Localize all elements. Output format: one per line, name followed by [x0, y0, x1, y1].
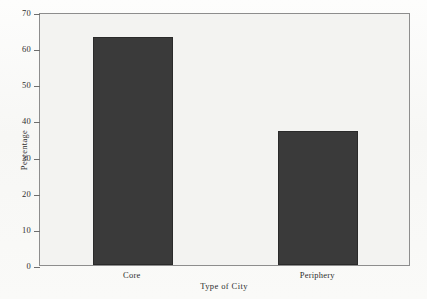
bar	[278, 131, 358, 265]
y-axis-tick-label: 40	[22, 116, 31, 126]
x-axis-title: Type of City	[200, 281, 248, 291]
y-axis-tick-label: 0	[27, 261, 31, 271]
y-axis-title: Percentage	[19, 129, 29, 169]
y-axis-tick-label: 20	[22, 189, 31, 199]
y-axis-tick: 60	[34, 50, 40, 51]
y-axis-tick-label: 30	[22, 153, 31, 163]
y-axis-tick-label: 10	[22, 225, 31, 235]
y-axis-tick-label: 70	[22, 8, 31, 18]
y-axis-tick-label: 60	[22, 44, 31, 54]
plot-area: 010203040506070	[40, 14, 409, 265]
plot-frame: 010203040506070	[39, 13, 410, 266]
x-axis-tick-label: Periphery	[300, 270, 335, 280]
y-axis-tick: 70	[34, 14, 40, 15]
bar	[93, 37, 173, 265]
x-axis-tick-label: Core	[123, 270, 140, 280]
y-axis-tick: 10	[34, 231, 40, 232]
y-axis-tick: 30	[34, 159, 40, 160]
y-axis-tick: 20	[34, 195, 40, 196]
y-axis-tick: 0	[34, 267, 40, 268]
y-axis-tick-label: 50	[22, 80, 31, 90]
y-axis-tick: 50	[34, 86, 40, 87]
bar-chart-figure: Percentage 010203040506070 Type of City …	[0, 0, 427, 299]
y-axis-tick: 40	[34, 122, 40, 123]
